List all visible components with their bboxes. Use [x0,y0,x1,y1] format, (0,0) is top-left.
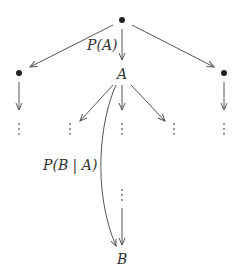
right-continuation-dots [223,123,225,135]
b-continuation-dots [121,189,123,201]
node-a-label: A [115,66,127,82]
child-3-continuation-dots [173,123,175,135]
left-node [16,70,22,76]
probability-tree-diagram: P(A) A P(B | A) [0,0,238,278]
root-node [119,17,125,23]
edge-root-to-right [132,25,214,67]
edge-a-to-child-1 [80,85,113,121]
edge-label-p-a: P(A) [86,37,117,53]
edge-label-p-b-given-a: P(B | A) [42,157,97,174]
node-b-label: B [116,251,127,267]
edge-a-to-child-3 [131,85,165,121]
right-node [221,70,227,76]
edge-a-to-b-curve [101,85,116,246]
child-1-continuation-dots [69,123,71,135]
child-2-continuation-dots [121,123,123,135]
left-continuation-dots [18,123,20,135]
